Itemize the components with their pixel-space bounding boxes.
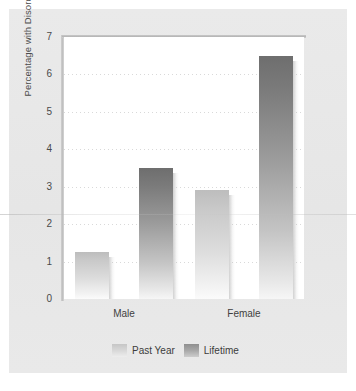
x-tick-label-female: Female: [204, 308, 284, 319]
bar-body: [195, 190, 229, 299]
scan-line-artifact: [0, 214, 356, 215]
bar-female-past-year: [195, 190, 229, 299]
y-tick-label: 7: [36, 32, 52, 42]
y-tick-label: 2: [36, 219, 52, 229]
plot-area: [64, 37, 304, 299]
legend-label: Past Year: [132, 345, 175, 356]
bar-male-lifetime: [139, 168, 173, 299]
bar-male-past-year: [75, 252, 109, 299]
bar-body: [139, 168, 173, 299]
x-tick-label-male: Male: [84, 308, 164, 319]
y-tick-label: 0: [36, 294, 52, 304]
bar-chart-figure: Percentage with Disorder 01234567 MaleFe…: [0, 0, 356, 391]
legend-swatch-icon: [184, 344, 199, 357]
y-tick-label: 5: [36, 107, 52, 117]
legend-item-past-year[interactable]: Past Year: [112, 344, 175, 357]
chart-legend: Past YearLifetime: [112, 342, 239, 358]
bar-body: [259, 56, 293, 299]
y-tick-label: 6: [36, 69, 52, 79]
y-axis-label: Percentage with Disorder: [21, 0, 35, 122]
bar-shadow: [109, 257, 115, 299]
y-tick-label: 3: [36, 182, 52, 192]
bar-body: [75, 252, 109, 299]
legend-swatch-icon: [112, 344, 127, 357]
bar-shadow: [229, 195, 235, 299]
legend-item-lifetime[interactable]: Lifetime: [184, 344, 239, 357]
bar-female-lifetime: [259, 56, 293, 299]
y-tick-label: 4: [36, 144, 52, 154]
bar-shadow: [173, 173, 179, 299]
bar-shadow: [293, 61, 299, 299]
y-tick-label: 1: [36, 257, 52, 267]
legend-label: Lifetime: [204, 345, 239, 356]
